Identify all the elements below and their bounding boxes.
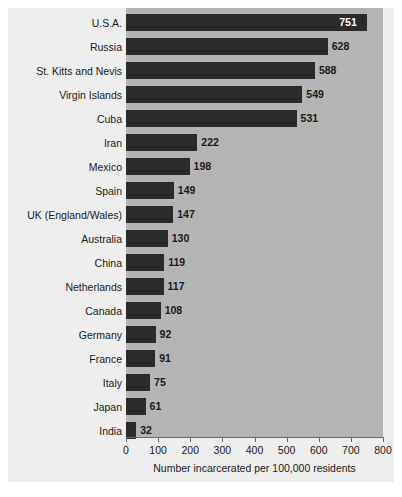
bar-value-label: 149 [178, 182, 196, 199]
x-axis-tick-label: 0 [123, 444, 129, 456]
bar-track: 147 [126, 203, 394, 227]
bar-row: Spain149 [8, 179, 394, 203]
bar [126, 254, 164, 271]
bar-row: Germany92 [8, 323, 394, 347]
bar [126, 230, 168, 247]
bar-value-label: 61 [150, 398, 162, 415]
category-label: France [8, 354, 126, 365]
bar-track: 75 [126, 371, 394, 395]
bar-row: Cuba531 [8, 107, 394, 131]
bar-track: 117 [126, 275, 394, 299]
category-label: Virgin Islands [8, 90, 126, 101]
category-label: U.S.A. [8, 18, 126, 29]
bar [126, 182, 174, 199]
bar-track: 92 [126, 323, 394, 347]
bar-row: France91 [8, 347, 394, 371]
x-axis-tick [190, 437, 191, 442]
bar-row: U.S.A.751 [8, 11, 394, 35]
bar-value-label: 92 [160, 326, 172, 343]
bar [126, 326, 156, 343]
bar-track: 751 [126, 11, 394, 35]
bar-track: 549 [126, 83, 394, 107]
bar-value-label: 588 [319, 62, 337, 79]
category-label: Netherlands [8, 282, 126, 293]
x-axis-tick-label: 500 [278, 444, 296, 456]
x-axis-tick [158, 437, 159, 442]
bar-row: UK (England/Wales)147 [8, 203, 394, 227]
x-axis-tick [287, 437, 288, 442]
category-label: Italy [8, 378, 126, 389]
bar-track: 531 [126, 107, 394, 131]
bar-row: China119 [8, 251, 394, 275]
category-label: Australia [8, 234, 126, 245]
bar-row: Mexico198 [8, 155, 394, 179]
bar [126, 350, 155, 367]
x-axis-tick [255, 437, 256, 442]
bar-chart: U.S.A.751Russia628St. Kitts and Nevis588… [8, 8, 394, 482]
bar-row: St. Kitts and Nevis588 [8, 59, 394, 83]
category-label: Japan [8, 402, 126, 413]
bar-value-label: 91 [159, 350, 171, 367]
x-axis-tick-label: 800 [374, 444, 392, 456]
bar-row: Japan61 [8, 395, 394, 419]
bar [126, 302, 161, 319]
bar [126, 134, 197, 151]
bar-row: Australia130 [8, 227, 394, 251]
bar-track: 628 [126, 35, 394, 59]
bar-row: Italy75 [8, 371, 394, 395]
bar [126, 110, 297, 127]
bar-value-label: 628 [332, 38, 350, 55]
bar-value-label: 549 [306, 86, 324, 103]
bar-value-label: 222 [201, 134, 219, 151]
bar-value-label: 130 [172, 230, 190, 247]
x-axis-tick-label: 300 [214, 444, 232, 456]
bar-row: Russia628 [8, 35, 394, 59]
bar [126, 158, 190, 175]
bar-track: 91 [126, 347, 394, 371]
category-label: Cuba [8, 114, 126, 125]
x-axis-title: Number incarcerated per 100,000 resident… [126, 462, 383, 474]
bar-track: 119 [126, 251, 394, 275]
bar-track: 588 [126, 59, 394, 83]
bar-track: 149 [126, 179, 394, 203]
bar-value-label: 531 [301, 110, 319, 127]
bar-row: Netherlands117 [8, 275, 394, 299]
category-label: Mexico [8, 162, 126, 173]
bar [126, 86, 302, 103]
x-axis-tick-label: 700 [342, 444, 360, 456]
bar [126, 14, 367, 31]
x-axis-tick-label: 200 [181, 444, 199, 456]
category-label: Iran [8, 138, 126, 149]
bar-row: Iran222 [8, 131, 394, 155]
x-axis-tick [351, 437, 352, 442]
bar-track: 130 [126, 227, 394, 251]
bar-value-label: 751 [339, 14, 357, 31]
bar [126, 398, 146, 415]
category-label: Spain [8, 186, 126, 197]
category-label: Russia [8, 42, 126, 53]
bar [126, 38, 328, 55]
bar [126, 374, 150, 391]
bar [126, 278, 164, 295]
bar-track: 198 [126, 155, 394, 179]
figure-background: U.S.A.751Russia628St. Kitts and Nevis588… [8, 8, 394, 482]
x-axis-tick [319, 437, 320, 442]
category-label: UK (England/Wales) [8, 210, 126, 221]
bar [126, 206, 173, 223]
bar-track: 222 [126, 131, 394, 155]
category-label: China [8, 258, 126, 269]
bar-value-label: 75 [154, 374, 166, 391]
x-axis-tick [383, 437, 384, 442]
category-label: St. Kitts and Nevis [8, 66, 126, 77]
bar-value-label: 108 [165, 302, 183, 319]
bar-row: Canada108 [8, 299, 394, 323]
x-axis: 0100200300400500600700800 Number incarce… [126, 437, 383, 482]
x-axis-tick-label: 100 [149, 444, 167, 456]
x-axis-tick-label: 600 [310, 444, 328, 456]
bar-rows: U.S.A.751Russia628St. Kitts and Nevis588… [8, 11, 394, 443]
bar-value-label: 117 [168, 278, 185, 295]
bar-track: 61 [126, 395, 394, 419]
bar-value-label: 119 [168, 254, 185, 271]
x-axis-tick-label: 400 [246, 444, 264, 456]
bar-row: Virgin Islands549 [8, 83, 394, 107]
